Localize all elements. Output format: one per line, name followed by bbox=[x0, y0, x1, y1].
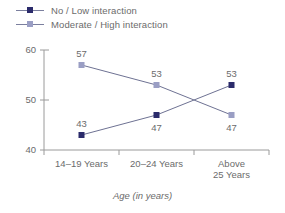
x-axis-tick-label-20-24-years: 20–24 Years bbox=[119, 158, 194, 169]
data-label-no-low-20-24: 47 bbox=[144, 122, 170, 133]
line-chart: No / Low interaction Moderate / High int… bbox=[0, 0, 285, 213]
x-tick-line-1: Above bbox=[218, 158, 245, 169]
x-axis-title: Age (in years) bbox=[0, 190, 285, 201]
y-axis-tick-label: 40 bbox=[16, 144, 36, 155]
chart-canvas bbox=[0, 0, 285, 213]
plot-area: 60 50 40 14–19 Years 20–24 Years Above 2… bbox=[0, 0, 285, 213]
x-axis-tick-label-above-25-years: Above 25 Years bbox=[194, 158, 269, 180]
data-label-no-low-14-19: 43 bbox=[69, 118, 95, 129]
y-axis-tick-label: 50 bbox=[16, 94, 36, 105]
data-label-moderate-high-20-24: 53 bbox=[144, 68, 170, 79]
x-tick-line-2: 25 Years bbox=[213, 169, 250, 180]
data-label-moderate-high-above-25: 47 bbox=[219, 122, 245, 133]
x-axis-tick-label-14-19-years: 14–19 Years bbox=[44, 158, 119, 169]
data-label-moderate-high-14-19: 57 bbox=[69, 48, 95, 59]
data-label-no-low-above-25: 53 bbox=[219, 68, 245, 79]
y-axis-tick-label: 60 bbox=[16, 44, 36, 55]
